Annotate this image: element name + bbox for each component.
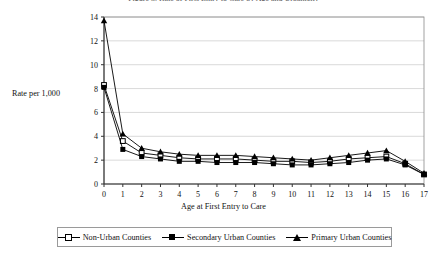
y-tick-label: 2 [94, 156, 98, 165]
x-tick-label: 15 [382, 190, 390, 199]
x-tick-label: 13 [345, 190, 353, 199]
data-point-marker [271, 161, 276, 166]
legend-label: Non-Urban Counties [83, 233, 151, 242]
y-tick-label: 14 [90, 13, 98, 22]
x-tick-label: 7 [234, 190, 238, 199]
x-tick-label: 10 [288, 190, 296, 199]
plot-area: 0246810121401234567891011121314151617 [0, 0, 447, 259]
x-tick-label: 1 [121, 190, 125, 199]
x-tick-label: 12 [326, 190, 334, 199]
data-point-marker [384, 156, 389, 161]
series-line [104, 21, 424, 174]
x-tick-label: 2 [140, 190, 144, 199]
x-tick-label: 17 [420, 190, 428, 199]
x-tick-label: 4 [177, 190, 181, 199]
data-point-marker [177, 159, 182, 164]
x-tick-label: 0 [102, 190, 106, 199]
chart-container: Figure 3. Rate of First Entry to Care by… [0, 0, 447, 259]
legend-item-non-urban: Non-Urban Counties [58, 233, 151, 242]
x-tick-label: 5 [196, 190, 200, 199]
y-tick-label: 6 [94, 108, 98, 117]
data-point-marker [233, 160, 238, 165]
series-line [104, 87, 424, 174]
data-point-marker [138, 145, 144, 151]
chart-title-clipped: Figure 3. Rate of First Entry to Care by… [0, 0, 447, 1]
x-tick-label: 9 [271, 190, 275, 199]
y-tick-label: 8 [94, 85, 98, 94]
data-point-marker [158, 156, 163, 161]
x-tick-label: 14 [364, 190, 372, 199]
filled-triangle-marker-icon [286, 233, 308, 242]
y-tick-label: 12 [90, 37, 98, 46]
data-point-marker [346, 160, 351, 165]
data-point-marker [327, 161, 332, 166]
legend-label: Secondary Urban Counties [187, 233, 275, 242]
data-point-marker [139, 154, 144, 159]
legend-label: Primary Urban Counties [311, 233, 391, 242]
data-point-marker [365, 158, 370, 163]
y-tick-label: 0 [94, 180, 98, 189]
chart-legend: Non-Urban Counties Secondary Urban Count… [57, 227, 392, 247]
data-point-marker [196, 159, 201, 164]
y-tick-label: 10 [90, 61, 98, 70]
filled-square-marker-icon [162, 233, 184, 242]
y-tick-label: 4 [94, 132, 98, 141]
x-tick-label: 6 [215, 190, 219, 199]
x-tick-label: 3 [158, 190, 162, 199]
x-axis-title: Age at First Entry to Care [0, 202, 447, 211]
y-axis-title: Rate per 1,000 [12, 89, 60, 98]
data-point-marker [309, 162, 314, 167]
data-point-marker [214, 160, 219, 165]
data-point-marker [102, 85, 107, 90]
data-point-marker [383, 147, 389, 153]
legend-item-secondary-urban: Secondary Urban Counties [162, 233, 275, 242]
series-line [104, 85, 424, 174]
data-point-marker [252, 160, 257, 165]
x-tick-label: 8 [253, 190, 257, 199]
x-tick-label: 11 [307, 190, 315, 199]
data-point-marker [290, 162, 295, 167]
data-point-marker [101, 17, 107, 23]
legend-item-primary-urban: Primary Urban Counties [286, 233, 391, 242]
x-tick-label: 16 [401, 190, 409, 199]
open-square-marker-icon [58, 233, 80, 242]
data-point-marker [120, 147, 125, 152]
